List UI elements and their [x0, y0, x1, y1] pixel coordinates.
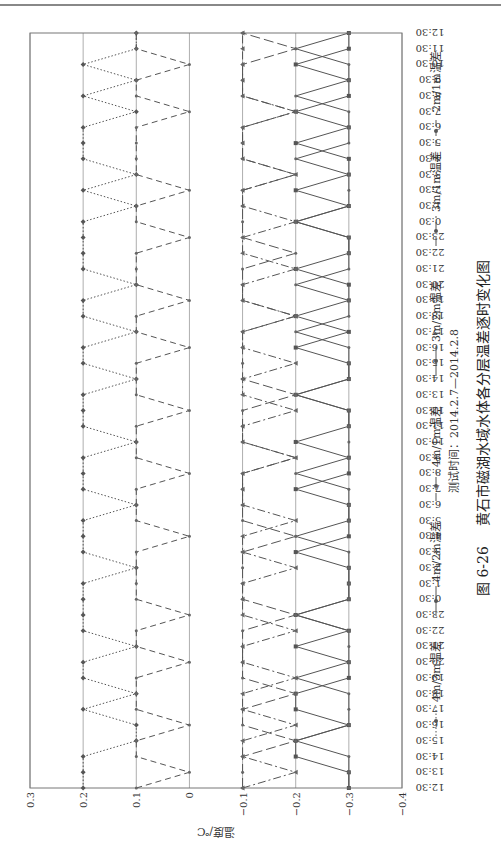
legend-label: 3m/1m温差: [429, 151, 443, 212]
x-tick-label: 16:30: [416, 342, 445, 353]
y-axis-ticks: 0.30.20.10−0.1−0.2−0.3−0.4: [25, 792, 408, 816]
figure-label: 图 6-26: [475, 546, 491, 596]
y-axis-label: 温度/℃: [197, 825, 235, 839]
x-tick-label: 21:30: [416, 263, 445, 274]
x-tick-label: 17:30: [416, 703, 445, 714]
x-tick-label: 6:30: [419, 499, 441, 510]
x-tick-label: 23:30: [416, 231, 445, 242]
y-tick-label: −0.4: [397, 792, 408, 816]
legend-label: 2m/1m温差: [429, 51, 443, 112]
chart: 0.30.20.10−0.1−0.2−0.3−0.4 12:3013:3014:…: [0, 0, 501, 846]
x-tick-label: 5:30: [419, 137, 441, 148]
x-tick-label: 12:30: [416, 782, 445, 793]
x-tick-label: 14:30: [416, 751, 445, 762]
chart-subtitle: 测试时间：2014.2.7—2014.2.8: [448, 329, 461, 493]
series-layer: [81, 31, 351, 791]
chart-title: 黄石市磁湖水域水体各分层温差逐时变化图: [475, 260, 491, 526]
x-tick-label: 7:30: [419, 483, 441, 494]
x-tick-label: 13:30: [416, 766, 445, 777]
y-tick-label: −0.2: [291, 792, 302, 816]
y-tick-label: 0: [184, 792, 195, 798]
series-3: [240, 31, 298, 791]
x-tick-label: 22:30: [416, 247, 445, 258]
x-tick-label: 0:30: [419, 216, 441, 227]
rotated-figure: 0.30.20.10−0.1−0.2−0.3−0.4 12:3013:3014:…: [0, 0, 501, 846]
gridlines: [30, 33, 402, 788]
y-tick-label: 0.2: [78, 792, 89, 808]
y-tick-label: 0.1: [131, 792, 142, 808]
series-1: [81, 31, 139, 791]
legend-label: 4m/3m温差: [429, 641, 443, 702]
x-tick-label: 13:30: [416, 389, 445, 400]
x-tick-label: 15:30: [416, 735, 445, 746]
legend-label: 4m/2m温差: [429, 521, 443, 582]
legend-label: 3m/2m温差: [429, 281, 443, 342]
x-tick-label: 0:30: [419, 593, 441, 604]
x-tick-label: 8:30: [419, 467, 441, 478]
series-6: [135, 32, 191, 790]
x-tick-label: 22:30: [416, 625, 445, 636]
plot-frame: [30, 33, 402, 788]
y-tick-label: 0.3: [25, 792, 36, 808]
x-tick-label: 12:30: [416, 27, 445, 38]
x-tick-label: 14:30: [416, 373, 445, 384]
x-tick-label: 23:30: [416, 609, 445, 620]
y-tick-label: −0.1: [238, 792, 249, 816]
legend-label: 4m/1m温差: [429, 406, 443, 467]
x-tick-label: 16:30: [416, 719, 445, 730]
y-tick-label: −0.3: [344, 792, 355, 816]
x-tick-label: 15:30: [416, 357, 445, 368]
